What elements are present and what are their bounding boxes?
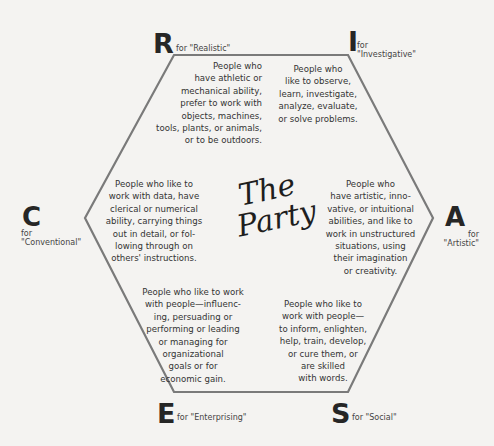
description-enterprising: People who like to work with people—infl… (130, 286, 256, 385)
description-social: People who like to work with people— to … (264, 298, 382, 385)
type-label-enterprising: for "Enterprising" (177, 413, 247, 422)
type-label-realistic: for "Realistic" (176, 44, 230, 53)
type-letter-e: E (157, 400, 175, 427)
description-conventional: People who like to work with data, have … (98, 178, 210, 265)
description-artistic: People who have artistic, inno- vative, … (318, 178, 423, 277)
type-label-conventional: for"Conventional" (21, 229, 81, 247)
type-label-artistic: for"Artistic" (435, 230, 479, 248)
description-realistic: People who have athletic or mechanical a… (142, 60, 262, 147)
type-letter-c: C (22, 204, 41, 230)
type-letter-s: S (331, 400, 350, 427)
type-label-social: for "Social" (352, 413, 397, 422)
type-letter-a: A (445, 204, 465, 230)
description-investigative: People who like to observe, learn, inves… (268, 63, 368, 125)
riasec-hexagon-diagram: R for "Realistic" People who have athlet… (0, 0, 494, 446)
type-label-investigative: for"Investigative" (357, 41, 416, 59)
type-letter-r: R (153, 30, 174, 57)
